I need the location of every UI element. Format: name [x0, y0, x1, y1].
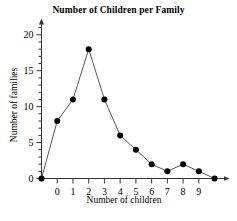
y-tick-labels: 05101520	[24, 29, 34, 184]
data-point-marker	[54, 118, 60, 124]
y-axis-title: Number of families	[9, 68, 19, 143]
data-point-marker	[39, 176, 45, 182]
data-point-marker	[117, 132, 123, 138]
data-point-marker	[86, 46, 92, 52]
y-tick-label: 10	[24, 101, 34, 112]
series-line	[42, 49, 215, 178]
data-point-marker	[164, 168, 170, 174]
data-point-marker	[101, 96, 107, 102]
data-series-group	[39, 46, 218, 181]
x-axis-title: Number of children	[87, 195, 162, 205]
x-ticks	[57, 179, 199, 184]
chart-page: Number of Children per Family 05101520 N…	[0, 0, 237, 221]
data-point-marker	[180, 161, 186, 167]
y-tick-label: 15	[24, 65, 34, 76]
line-chart-plot: 05101520 Number of families 0123456789 N…	[0, 0, 237, 221]
data-point-marker	[70, 96, 76, 102]
data-point-marker	[133, 147, 139, 153]
data-point-marker	[196, 168, 202, 174]
y-minor-ticks	[39, 28, 42, 172]
x-axis-group: 0123456789 Number of children	[42, 179, 225, 206]
x-tick-label: 1	[70, 186, 75, 197]
y-axis-group: 05101520 Number of families	[9, 24, 42, 184]
data-point-marker	[149, 161, 155, 167]
x-tick-label: 7	[165, 186, 170, 197]
series-markers	[39, 46, 218, 181]
y-tick-label: 0	[29, 173, 34, 184]
y-tick-label: 5	[29, 137, 34, 148]
y-tick-label: 20	[24, 29, 34, 40]
data-point-marker	[212, 176, 218, 182]
x-tick-label: 0	[55, 186, 60, 197]
x-tick-label: 8	[181, 186, 186, 197]
x-tick-label: 9	[196, 186, 201, 197]
